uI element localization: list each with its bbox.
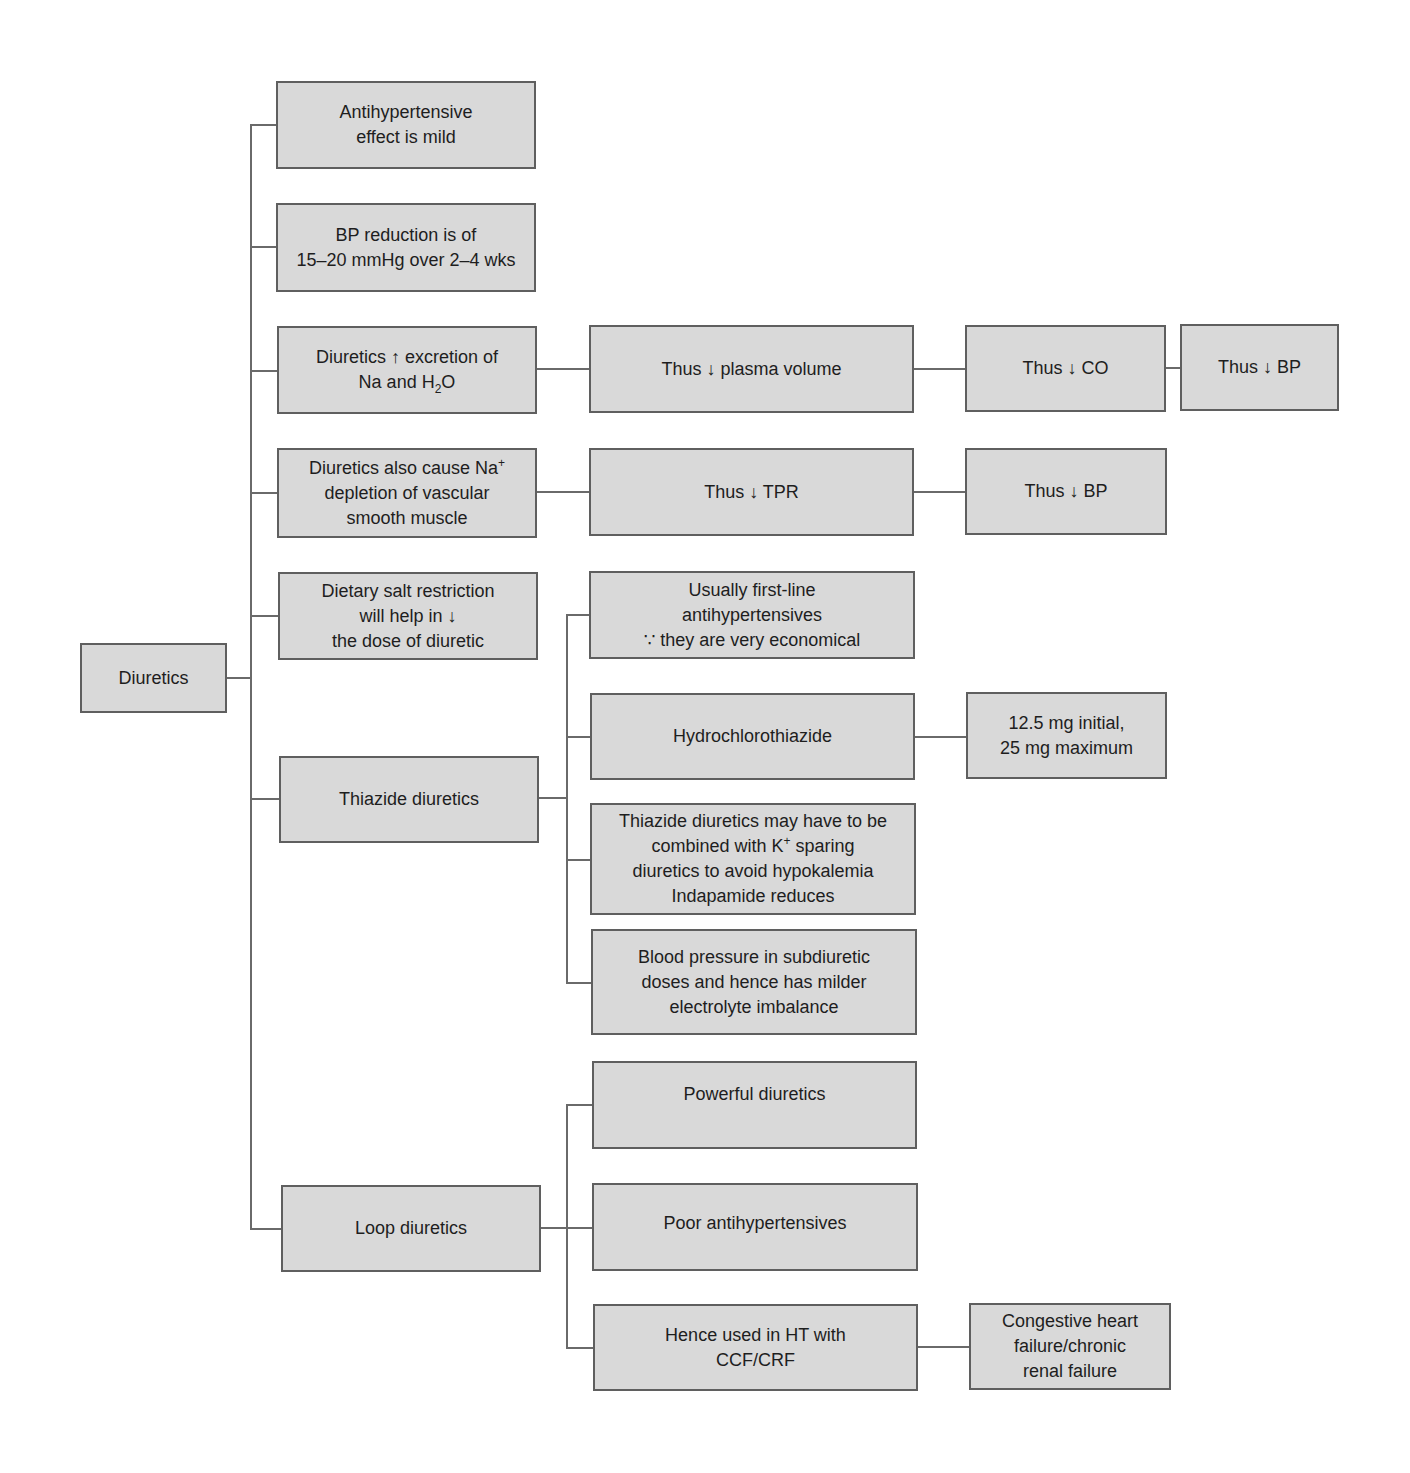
- box-thus-bp-1: Thus ↓ BP: [1180, 324, 1339, 411]
- box-text-line: smooth muscle: [309, 506, 505, 531]
- box-text-line: Thus ↓ BP: [1218, 355, 1301, 380]
- text-part: sparing: [791, 836, 855, 856]
- box-bp-reduction: BP reduction is of 15–20 mmHg over 2–4 w…: [276, 203, 536, 292]
- connector-thiazide-c2: [566, 736, 591, 738]
- root-box-diuretics: Diuretics: [80, 643, 227, 713]
- superscript: +: [498, 456, 505, 470]
- connector-ccf-detail: [917, 1346, 970, 1348]
- connector-loop-c1: [566, 1104, 593, 1106]
- box-text-line: Powerful diuretics: [683, 1082, 825, 1107]
- text-part: O: [441, 372, 455, 392]
- connector-thiazide: [250, 798, 280, 800]
- box-text-line: BP reduction is of: [296, 223, 515, 248]
- main-trunk: [250, 125, 252, 1230]
- connector-b4-chain1: [537, 491, 590, 493]
- box-text-line: Poor antihypertensives: [663, 1211, 846, 1236]
- connector-thiazide-c4: [566, 982, 592, 984]
- connector-b5: [250, 615, 279, 617]
- text-part: Na and H: [359, 372, 435, 392]
- box-plasma-volume: Thus ↓ plasma volume: [589, 325, 914, 413]
- box-text-line: Loop diuretics: [355, 1216, 467, 1241]
- connector-loop: [250, 1228, 282, 1230]
- box-text-line: 15–20 mmHg over 2–4 wks: [296, 248, 515, 273]
- box-text-line: failure/chronic: [1002, 1334, 1138, 1359]
- connector-b2: [250, 246, 277, 248]
- connector-b3-chain3: [1165, 367, 1181, 369]
- box-text-line: depletion of vascular: [309, 481, 505, 506]
- connector-thiazide-c3: [566, 859, 591, 861]
- box-poor-antihypertensives: Poor antihypertensives: [592, 1183, 918, 1271]
- box-text-line: antihypertensives: [644, 603, 861, 628]
- connector-thiazide-c1: [566, 614, 590, 616]
- box-subdiuretic-doses: Blood pressure in subdiuretic doses and …: [591, 929, 917, 1035]
- box-text-line: Congestive heart: [1002, 1309, 1138, 1334]
- box-text-line: diuretics to avoid hypokalemia: [619, 859, 887, 884]
- box-text-line: Hydrochlorothiazide: [673, 724, 832, 749]
- box-hctz-dose: 12.5 mg initial, 25 mg maximum: [966, 692, 1167, 779]
- box-thus-tpr: Thus ↓ TPR: [589, 448, 914, 536]
- box-ht-with-ccf-crf: Hence used in HT with CCF/CRF: [593, 1304, 918, 1391]
- connector-b4: [250, 492, 278, 494]
- box-text-line: Hence used in HT with: [665, 1323, 846, 1348]
- box-text-line: combined with K+ sparing: [619, 834, 887, 859]
- connector-b1: [250, 124, 277, 126]
- thiazide-trunk: [566, 614, 568, 984]
- box-text-line: doses and hence has milder: [638, 970, 870, 995]
- box-text-line: Antihypertensive: [339, 100, 472, 125]
- box-hydrochlorothiazide: Hydrochlorothiazide: [590, 693, 915, 780]
- connector-b4-chain2: [913, 491, 966, 493]
- connector-root: [226, 677, 251, 679]
- box-text-line: Thus ↓ CO: [1022, 356, 1108, 381]
- box-text-line: ∵ they are very economical: [644, 628, 861, 653]
- box-antihypertensive-mild: Antihypertensive effect is mild: [276, 81, 536, 169]
- box-text-line: effect is mild: [339, 125, 472, 150]
- box-salt-restriction: Dietary salt restriction will help in ↓ …: [278, 572, 538, 660]
- superscript: +: [784, 834, 791, 848]
- box-loop-diuretics: Loop diuretics: [281, 1185, 541, 1272]
- connector-loop-c3: [566, 1347, 594, 1349]
- box-text-line: Thus ↓ BP: [1024, 479, 1107, 504]
- box-first-line: Usually first-line antihypertensives ∵ t…: [589, 571, 915, 659]
- box-thiazide-diuretics: Thiazide diuretics: [279, 756, 539, 843]
- box-text-line: Blood pressure in subdiuretic: [638, 945, 870, 970]
- box-text-line: Thus ↓ TPR: [704, 480, 799, 505]
- box-text-line: 12.5 mg initial,: [1000, 711, 1133, 736]
- connector-hydro-dose: [914, 736, 967, 738]
- connector-b3-chain2: [913, 368, 966, 370]
- box-text-line: will help in ↓: [321, 604, 494, 629]
- box-thus-bp-2: Thus ↓ BP: [965, 448, 1167, 535]
- box-text-line: the dose of diuretic: [321, 629, 494, 654]
- box-text-line: electrolyte imbalance: [638, 995, 870, 1020]
- box-ccf-crf-definition: Congestive heart failure/chronic renal f…: [969, 1303, 1171, 1390]
- text-part: combined with K: [651, 836, 783, 856]
- box-text-line: 25 mg maximum: [1000, 736, 1133, 761]
- connector-b3: [250, 370, 278, 372]
- text-part: Diuretics also cause Na: [309, 458, 498, 478]
- connector-thiazide-out: [538, 797, 567, 799]
- box-text-line: Thiazide diuretics may have to be: [619, 809, 887, 834]
- box-k-sparing-combination: Thiazide diuretics may have to be combin…: [590, 803, 916, 915]
- box-text-line: Diuretics ↑ excretion of: [316, 345, 498, 370]
- box-text-line: Diuretics also cause Na+: [309, 456, 505, 481]
- root-label: Diuretics: [118, 666, 188, 691]
- box-text-line: Indapamide reduces: [619, 884, 887, 909]
- loop-trunk: [566, 1104, 568, 1349]
- connector-b3-chain1: [536, 368, 590, 370]
- box-excretion-na-h2o: Diuretics ↑ excretion of Na and H2O: [277, 326, 537, 414]
- box-powerful-diuretics: Powerful diuretics: [592, 1061, 917, 1149]
- box-text-line: Dietary salt restriction: [321, 579, 494, 604]
- box-text-line: Thus ↓ plasma volume: [661, 357, 841, 382]
- box-na-depletion: Diuretics also cause Na+ depletion of va…: [277, 448, 537, 538]
- box-text-line: Usually first-line: [644, 578, 861, 603]
- box-thus-co: Thus ↓ CO: [965, 325, 1166, 412]
- box-text-line: Thiazide diuretics: [339, 787, 479, 812]
- box-text-line: Na and H2O: [316, 370, 498, 395]
- box-text-line: CCF/CRF: [665, 1348, 846, 1373]
- box-text-line: renal failure: [1002, 1359, 1138, 1384]
